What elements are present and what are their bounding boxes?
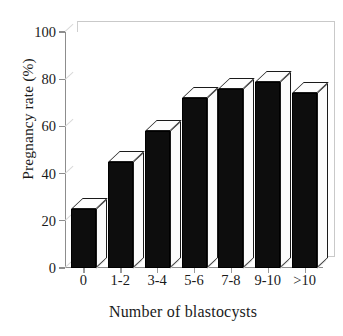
y-tick-mark: [59, 31, 65, 32]
y-tick-label: 40: [22, 166, 56, 181]
bar: [218, 89, 243, 268]
y-tick-mark: [59, 220, 65, 221]
bar-side-face: [243, 78, 254, 268]
bar-front-face: [108, 162, 133, 268]
bar-side-face: [207, 88, 218, 268]
bar-side-face: [96, 199, 107, 268]
bar-side-face: [317, 83, 328, 268]
bar-front-face: [71, 209, 96, 268]
bar: [71, 209, 96, 268]
bar: [108, 162, 133, 268]
bar-front-face: [145, 131, 170, 268]
bar-front-face: [255, 82, 280, 268]
bar-front-face: [218, 89, 243, 268]
bar-series: [65, 32, 323, 268]
plot-area: 020406080100 01-23-45-67-89-10>10: [65, 32, 323, 268]
bar: [145, 131, 170, 268]
bar-side-face: [170, 121, 181, 268]
bar-side-face: [280, 71, 291, 268]
y-tick-mark: [59, 173, 65, 174]
y-tick-mark: [59, 267, 65, 268]
y-tick-label: 100: [22, 25, 56, 40]
y-tick-mark: [59, 79, 65, 80]
bar: [255, 82, 280, 268]
bar-side-face: [133, 152, 144, 268]
bar-chart: Pregnancy rate (%) 020406080100 01-23-45…: [0, 0, 343, 336]
bar: [182, 98, 207, 268]
x-axis-title: Number of blastocysts: [38, 303, 328, 321]
y-tick-label: 20: [22, 214, 56, 229]
y-tick-label: 60: [22, 119, 56, 134]
bar: [292, 93, 317, 268]
y-tick-label: 0: [22, 261, 56, 276]
y-tick-mark: [59, 126, 65, 127]
plot-floor: [65, 268, 323, 280]
y-tick-label: 80: [22, 72, 56, 87]
bar-front-face: [182, 98, 207, 268]
bar-front-face: [292, 93, 317, 268]
